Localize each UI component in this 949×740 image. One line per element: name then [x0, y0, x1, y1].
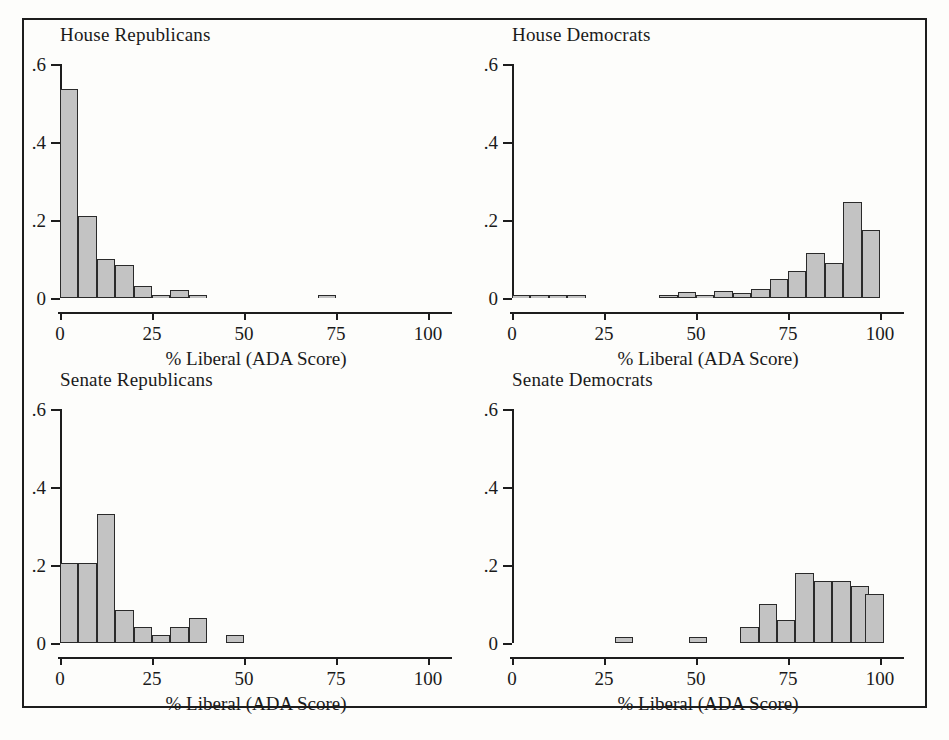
y-axis-tick-label: .2 [32, 211, 46, 230]
panel-house-democrats: House Democrats % Liberal (ADA Score) 0.… [476, 20, 928, 365]
histogram-bar [832, 581, 850, 643]
x-axis-tick-label: 100 [866, 323, 895, 344]
plot-area: % Liberal (ADA Score) 0.2.4.60255075100 [512, 409, 892, 643]
y-axis-tick: .4 [51, 142, 60, 144]
x-axis-tick-label: 75 [779, 323, 798, 344]
histogram-bar [843, 202, 861, 298]
histogram-bar [759, 604, 777, 643]
y-axis-tick: .2 [51, 565, 60, 567]
x-axis-tick-label: 100 [414, 668, 443, 689]
x-axis-title: % Liberal (ADA Score) [166, 693, 347, 714]
x-axis-tick [880, 657, 882, 665]
x-axis-tick [60, 312, 62, 320]
scan-bleed-artifact [0, 712, 949, 740]
y-axis-tick-label: .4 [484, 133, 498, 152]
x-axis-tick [60, 657, 62, 665]
y-axis-tick-label: .6 [32, 55, 46, 74]
y-axis-tick-label: .2 [484, 211, 498, 230]
x-axis-tick [604, 657, 606, 665]
histogram-bar [795, 573, 813, 643]
histogram-bar [152, 635, 170, 643]
histogram-bar [814, 581, 832, 643]
x-axis-tick-label: 50 [235, 668, 254, 689]
x-axis-tick [428, 312, 430, 320]
x-axis-tick [152, 657, 154, 665]
y-axis-tick: 0 [51, 643, 60, 645]
y-axis-tick: .6 [503, 64, 512, 66]
y-axis-tick-label: 0 [489, 289, 499, 308]
x-axis-tick-label: 0 [55, 668, 65, 689]
x-axis-tick [604, 312, 606, 320]
y-axis-tick-label: .2 [32, 556, 46, 575]
histogram-bar [733, 293, 751, 298]
y-axis-tick-label: .6 [484, 55, 498, 74]
plot-area: % Liberal (ADA Score) 0.2.4.60255075100 [60, 64, 440, 298]
histogram-bar [226, 635, 244, 643]
x-axis-tick [880, 312, 882, 320]
y-axis-tick: .6 [503, 409, 512, 411]
x-axis-tick [244, 312, 246, 320]
x-axis-tick [428, 657, 430, 665]
histogram-bar [777, 620, 795, 643]
x-axis-tick-label: 0 [55, 323, 65, 344]
histogram-bar [615, 637, 633, 643]
y-axis-tick-label: .4 [484, 478, 498, 497]
histogram-bar [97, 514, 115, 643]
histogram-bar [115, 265, 133, 298]
x-axis-tick-label: 50 [687, 323, 706, 344]
histogram-bar [134, 286, 152, 298]
x-axis-tick-label: 25 [143, 668, 162, 689]
y-axis-tick: .4 [503, 487, 512, 489]
bar-series [60, 409, 440, 643]
x-axis-tick-label: 50 [235, 323, 254, 344]
histogram-bar [530, 295, 548, 298]
histogram-bar [788, 271, 806, 298]
histogram-bar [134, 627, 152, 643]
histogram-bar [512, 295, 530, 298]
y-axis-tick: .6 [51, 64, 60, 66]
y-axis-tick: 0 [51, 298, 60, 300]
bar-series [60, 64, 440, 298]
x-axis-tick [788, 657, 790, 665]
y-axis-tick: 0 [503, 298, 512, 300]
histogram-bar [78, 563, 96, 643]
histogram-bar [806, 253, 824, 298]
histogram-bar [689, 637, 707, 643]
histogram-bar [865, 594, 883, 643]
x-axis-tick [336, 312, 338, 320]
y-axis-tick: .2 [503, 220, 512, 222]
panel-title: House Republicans [60, 24, 211, 46]
y-axis-tick-label: 0 [37, 634, 47, 653]
panel-title: Senate Democrats [512, 369, 653, 391]
x-axis-tick [696, 657, 698, 665]
y-axis-tick-label: .6 [484, 400, 498, 419]
histogram-bar [549, 295, 567, 298]
y-axis-tick-label: .6 [32, 400, 46, 419]
figure-frame: House Republicans % Liberal (ADA Score) … [22, 18, 927, 708]
x-axis-tick [696, 312, 698, 320]
panel-senate-republicans: Senate Republicans % Liberal (ADA Score)… [24, 365, 476, 710]
histogram-bar [567, 295, 585, 298]
histogram-bar [152, 295, 170, 298]
x-axis-tick [152, 312, 154, 320]
histogram-bar [751, 289, 769, 298]
x-axis-tick-label: 75 [779, 668, 798, 689]
y-axis-tick: .4 [503, 142, 512, 144]
x-axis-line [58, 657, 452, 659]
histogram-bar [825, 263, 843, 298]
histogram-bar [740, 627, 758, 643]
x-axis-tick-label: 25 [595, 668, 614, 689]
x-axis-tick-label: 100 [414, 323, 443, 344]
histogram-bar [659, 295, 677, 298]
bar-series [512, 64, 892, 298]
histogram-bar [318, 295, 336, 298]
panel-senate-democrats: Senate Democrats % Liberal (ADA Score) 0… [476, 365, 928, 710]
y-axis-tick: .2 [51, 220, 60, 222]
panel-title: House Democrats [512, 24, 651, 46]
y-axis-tick: .4 [51, 487, 60, 489]
histogram-bar [189, 295, 207, 298]
histogram-bar [862, 230, 880, 298]
y-axis-tick: .6 [51, 409, 60, 411]
y-axis-tick-label: 0 [37, 289, 47, 308]
x-axis-tick-label: 25 [143, 323, 162, 344]
